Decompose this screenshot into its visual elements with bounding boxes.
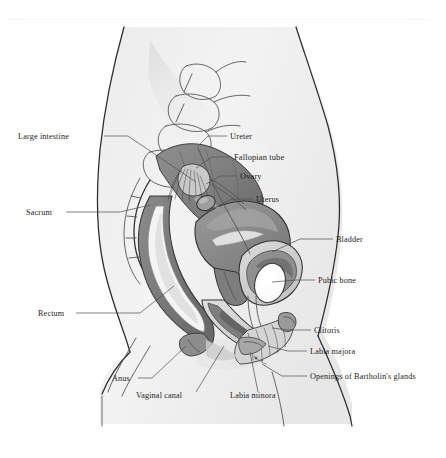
label-bartholin-glands: Openings of Bartholin's glands (310, 372, 416, 381)
label-fallopian-tube: Fallopian tube (234, 153, 284, 162)
label-rectum: Rectum (38, 309, 65, 318)
label-labia-minora: Labia minora (230, 391, 276, 400)
anatomy-figure: Large intestine Sacrum Rectum Anus Vagin… (0, 0, 446, 458)
label-pubic-bone: Pubic bone (318, 276, 356, 285)
label-large-intestine: Large intestine (18, 132, 69, 141)
label-anus: Anus (112, 374, 130, 383)
label-clitoris: Clitoris (314, 326, 340, 335)
label-labia-majora: Labia majora (310, 347, 355, 356)
clitoris (278, 312, 296, 331)
label-ovary: Ovary (240, 172, 262, 181)
label-ureter: Ureter (230, 132, 252, 141)
label-vaginal-canal: Vaginal canal (136, 391, 183, 400)
label-sacrum: Sacrum (26, 208, 52, 217)
label-uterus: Uterus (256, 195, 279, 204)
anatomy-svg: Large intestine Sacrum Rectum Anus Vagin… (0, 0, 446, 458)
label-bladder: Bladder (336, 235, 363, 244)
scan-artifact (6, 19, 430, 23)
